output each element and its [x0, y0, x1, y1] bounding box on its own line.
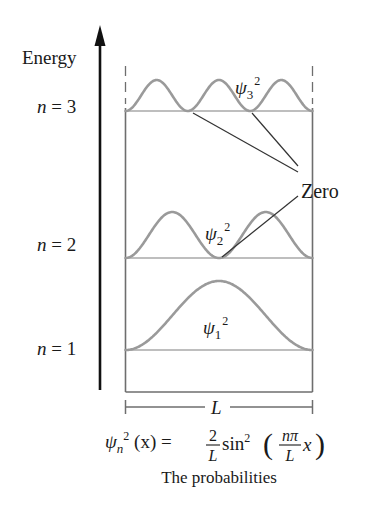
svg-text:sin2: sin2: [222, 431, 250, 454]
level-label-n3: n = 3: [37, 96, 76, 117]
arrow-up-icon: [95, 25, 106, 46]
width-label: L: [210, 397, 222, 418]
svg-text:ψn2 (x) =: ψn2 (x) =: [105, 429, 172, 456]
energy-axis-label: Energy: [22, 47, 77, 68]
svg-text:): ): [315, 427, 325, 461]
svg-text:(: (: [263, 427, 273, 461]
svg-text:L: L: [208, 447, 218, 464]
level-label-n1: n = 1: [37, 338, 76, 359]
level-label-n2: n = 2: [37, 234, 76, 255]
probability-formula: ψn2 (x) = 2 L sin2 ( nπ L x ): [105, 427, 325, 464]
zero-annotation: Zero: [301, 180, 339, 202]
svg-text:x: x: [302, 434, 312, 455]
energy-axis: [95, 25, 106, 390]
energy-level-baselines: [126, 111, 313, 350]
curve-label-psi2: ψ22: [205, 220, 230, 248]
svg-text:L: L: [285, 447, 295, 464]
particle-in-box-diagram: Energy Zero n = 3 n = 2 n = 1: [0, 0, 370, 511]
svg-text:nπ: nπ: [282, 427, 299, 444]
probability-curve-n3: [126, 80, 313, 111]
caption: The probabilities: [161, 468, 277, 487]
curve-label-psi3: ψ32: [235, 74, 260, 102]
svg-text:2: 2: [209, 427, 217, 444]
curve-label-psi1: ψ12: [203, 314, 228, 342]
